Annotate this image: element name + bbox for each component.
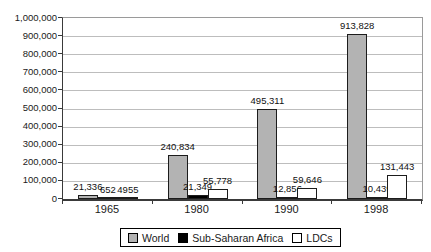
bar-sub-saharan-africa (277, 197, 297, 199)
y-axis-label: 0 (0, 193, 57, 204)
y-axis-label: 200,000 (0, 156, 57, 167)
x-axis-tick (331, 200, 332, 204)
bar-sub-saharan-africa (367, 197, 387, 199)
legend-swatch (178, 233, 188, 243)
x-axis-label: 1980 (184, 203, 208, 215)
gridline (63, 163, 422, 164)
bar-ldcs (208, 189, 228, 199)
gridline (63, 54, 422, 55)
legend-swatch (292, 233, 302, 243)
y-axis-label: 400,000 (0, 120, 57, 131)
x-axis-tick (62, 200, 63, 204)
bar-world (347, 34, 367, 199)
legend: WorldSub-Saharan AfricaLDCs (120, 228, 341, 247)
bar-ldcs (387, 175, 407, 199)
y-axis-label: 700,000 (0, 66, 57, 77)
bar-chart-figure: 0100,000200,000300,000400,000500,000600,… (0, 0, 431, 252)
bar-value-label: 913,828 (340, 21, 374, 31)
gridline (63, 145, 422, 146)
bar-sub-saharan-africa (188, 195, 208, 199)
legend-label: LDCs (306, 232, 332, 244)
y-axis-label: 600,000 (0, 84, 57, 95)
gridline (63, 36, 422, 37)
y-axis-label: 300,000 (0, 138, 57, 149)
x-axis-label: 1965 (95, 203, 119, 215)
bar-value-label: 4955 (117, 185, 138, 195)
gridline (63, 181, 422, 182)
y-axis-label: 800,000 (0, 48, 57, 59)
bar-value-label: 59,646 (293, 175, 322, 185)
y-axis-label: 1,000,000 (0, 12, 57, 23)
bar-ldcs (297, 188, 317, 199)
bar-value-label: 240,834 (160, 142, 194, 152)
bar-value-label: 21,336 (73, 182, 102, 192)
x-axis-label: 1990 (274, 203, 298, 215)
x-axis-label: 1998 (364, 203, 388, 215)
bar-world (168, 155, 188, 199)
x-axis-tick (242, 200, 243, 204)
bar-value-label: 55,778 (203, 176, 232, 186)
y-axis-label: 900,000 (0, 30, 57, 41)
bar-value-label: 131,443 (380, 162, 414, 172)
y-axis-label: 500,000 (0, 102, 57, 113)
gridline (63, 109, 422, 110)
gridline (63, 90, 422, 91)
legend-label: World (142, 232, 169, 244)
gridline (63, 127, 422, 128)
legend-item: LDCs (292, 232, 332, 244)
legend-item: Sub-Saharan Africa (178, 232, 283, 244)
x-axis-tick (421, 200, 422, 204)
bar-value-label: 652 (100, 185, 116, 195)
bar-value-label: 495,311 (251, 96, 285, 106)
bar-world (78, 195, 98, 199)
bar-ldcs (118, 197, 138, 199)
gridline (63, 72, 422, 73)
legend-swatch (128, 233, 138, 243)
plot-area: 21,3366524955240,83421,34955,778495,3111… (62, 17, 423, 201)
legend-label: Sub-Saharan Africa (192, 232, 283, 244)
legend-item: World (128, 232, 169, 244)
y-axis-label: 100,000 (0, 174, 57, 185)
bar-sub-saharan-africa (98, 197, 118, 199)
x-axis-tick (152, 200, 153, 204)
